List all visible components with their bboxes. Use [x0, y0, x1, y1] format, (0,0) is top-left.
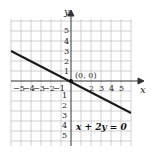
svg-text:5: 5 [119, 84, 124, 93]
svg-text:1: 1 [64, 67, 69, 76]
svg-text:1: 1 [62, 91, 67, 100]
svg-text:3: 3 [99, 84, 104, 93]
svg-text:2: 2 [62, 101, 67, 110]
svg-text:5: 5 [64, 26, 69, 35]
svg-text:3: 3 [64, 47, 69, 56]
x-axis-label: x [140, 84, 146, 95]
svg-text:2: 2 [89, 84, 94, 93]
coordinate-graph: y x −5 −4 −3 −2 −1 2 3 4 5 5 4 3 2 1 1 2… [0, 0, 153, 153]
svg-text:4: 4 [62, 121, 67, 130]
y-tick-labels: 5 4 3 2 1 1 2 3 4 5 [62, 26, 69, 140]
x-tick-labels: −5 −4 −3 −2 −1 2 3 4 5 [13, 84, 124, 93]
origin-label: (0, 0) [75, 71, 97, 80]
svg-text:2: 2 [64, 57, 69, 66]
svg-text:5: 5 [62, 131, 67, 140]
svg-text:4: 4 [64, 37, 69, 46]
origin-point [69, 79, 73, 83]
y-axis-label: y [63, 6, 70, 17]
equation-label: x + 2y = 0 [75, 122, 127, 132]
svg-text:3: 3 [62, 111, 67, 120]
svg-text:4: 4 [109, 84, 114, 93]
